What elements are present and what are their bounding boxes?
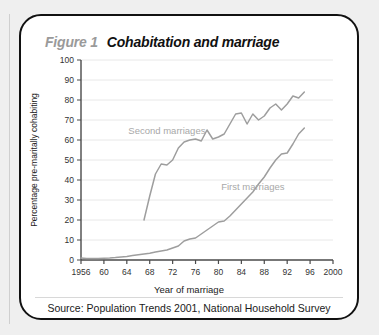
figure-number-label: Figure 1 [45,34,98,50]
y-axis-tick-label: 50 [65,155,75,165]
y-axis-tick-label: 10 [65,235,75,245]
y-axis-tick-label: 20 [65,215,75,225]
y-axis-tick-label: 60 [65,135,75,145]
y-axis-tick-label: 40 [65,175,75,185]
x-axis-tick-label: 72 [168,267,178,277]
x-axis-tick-label: 92 [282,267,292,277]
x-axis-tick-label: 96 [305,267,315,277]
x-axis-tick-label: 64 [122,267,132,277]
figure-card: Figure 1Cohabitation and marriage 010203… [19,14,359,320]
source-divider [35,297,343,298]
y-axis-tick-label: 70 [65,115,75,125]
x-axis-tick-label: 68 [145,267,155,277]
left-edge-artifact [9,14,10,324]
series-line-first-marriages [81,128,304,258]
x-axis-tick-label: 84 [237,267,247,277]
y-axis-title: Percentage pre-maritally cohabiting [29,93,39,227]
y-axis-tick-label: 90 [65,75,75,85]
source-note: Source: Population Trends 2001, National… [21,302,357,314]
figure-title-text: Cohabitation and marriage [107,34,279,50]
x-axis-tick-label: 80 [214,267,224,277]
gridlines-group [81,60,333,240]
y-axis-tick-label: 80 [65,95,75,105]
series-label-second-marriages: Second marriages [128,125,205,136]
figure-title: Figure 1Cohabitation and marriage [45,34,279,50]
chart-plot-area: 0102030405060708090100 19566064687276808… [21,50,357,282]
x-axis-tick-label: 1956 [72,267,91,277]
x-axis-tick-label: 88 [260,267,270,277]
x-axis-tick-label: 76 [191,267,201,277]
series-label-first-marriages: First marriages [221,181,285,192]
y-axis-tick-label: 100 [60,55,74,65]
x-axis-title: Year of marriage [21,284,357,295]
x-axis-ticks-group: 1956606468727680848892962000 [72,260,343,277]
cohabitation-line-chart: 0102030405060708090100 19566064687276808… [21,50,357,282]
y-axis-tick-label: 30 [65,195,75,205]
y-axis-tick-label: 0 [69,255,74,265]
y-axis-ticks-group: 0102030405060708090100 [60,55,81,265]
x-axis-tick-label: 2000 [324,267,343,277]
x-axis-tick-label: 60 [99,267,109,277]
